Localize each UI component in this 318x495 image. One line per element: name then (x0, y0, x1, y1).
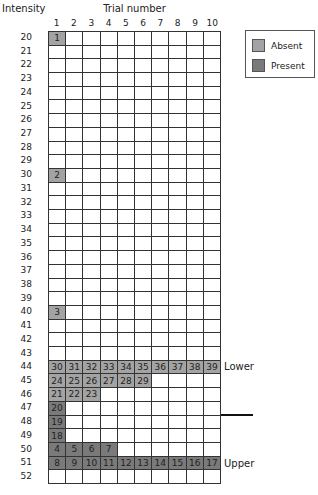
legend-item-absent: Absent (252, 39, 302, 52)
grid-cell (118, 292, 135, 306)
grid-cell (152, 347, 169, 361)
grid-cell (169, 443, 186, 457)
grid-cell (135, 155, 152, 169)
grid-cell (66, 155, 83, 169)
y-tick: 46 (0, 388, 34, 402)
grid-cell (101, 265, 118, 279)
grid-cell (152, 374, 169, 388)
grid-cell (49, 114, 66, 128)
grid-cell (83, 210, 100, 224)
grid-cell (135, 32, 152, 46)
grid-cell: 10 (83, 457, 100, 471)
grid-cell (66, 306, 83, 320)
grid-cell (101, 155, 118, 169)
grid-cell (135, 429, 152, 443)
grid-cell (135, 87, 152, 101)
grid-cell (187, 292, 204, 306)
grid-cell (187, 251, 204, 265)
grid-cell (101, 87, 118, 101)
grid-cell (49, 196, 66, 210)
grid-cell (187, 374, 204, 388)
grid-cell (187, 46, 204, 60)
grid-cell (152, 224, 169, 238)
grid-cell (169, 320, 186, 334)
grid-cell (204, 292, 221, 306)
grid-cell (204, 142, 221, 156)
grid-cell (152, 73, 169, 87)
x-tick: 3 (83, 18, 100, 31)
grid-cell (101, 128, 118, 142)
grid-cell (118, 265, 135, 279)
grid-cell (101, 388, 118, 402)
y-tick: 31 (0, 182, 34, 196)
absent-swatch (252, 39, 265, 52)
grid-cell: 24 (49, 374, 66, 388)
grid-cell (101, 59, 118, 73)
grid-cell (118, 416, 135, 430)
row-annotation-upper: Upper (224, 458, 254, 469)
grid-cell (66, 114, 83, 128)
grid-cell (118, 114, 135, 128)
x-axis-label: Trial number (48, 3, 221, 14)
grid-cell (204, 100, 221, 114)
grid-cell: 37 (169, 361, 186, 375)
trial-grid: 1233031323334353637383924252627282921222… (48, 31, 221, 484)
y-tick: 36 (0, 251, 34, 265)
row-annotation-lower: Lower (224, 361, 254, 372)
y-ticks: 2021222324252627282930313233343536373839… (0, 31, 34, 484)
x-tick: 4 (100, 18, 117, 31)
grid-cell (204, 320, 221, 334)
grid-cell (66, 46, 83, 60)
grid-cell (169, 183, 186, 197)
grid-cell (152, 320, 169, 334)
y-tick: 44 (0, 360, 34, 374)
grid-cell (83, 73, 100, 87)
grid-cell (83, 155, 100, 169)
grid-cell (187, 320, 204, 334)
grid-cell: 35 (135, 361, 152, 375)
x-tick: 5 (117, 18, 134, 31)
grid-cell (101, 32, 118, 46)
grid-cell (135, 320, 152, 334)
grid-cell: 6 (83, 443, 100, 457)
grid-cell (49, 292, 66, 306)
grid-cell (118, 210, 135, 224)
grid-cell (187, 416, 204, 430)
grid-cell (135, 142, 152, 156)
grid-cell (49, 279, 66, 293)
grid-cell (152, 100, 169, 114)
grid-cell (187, 87, 204, 101)
grid-cell (169, 142, 186, 156)
grid-cell (118, 183, 135, 197)
grid-cell (49, 183, 66, 197)
grid-cell: 16 (187, 457, 204, 471)
grid-cell (152, 210, 169, 224)
grid-cell (187, 388, 204, 402)
grid-cell (169, 251, 186, 265)
grid-cell (169, 169, 186, 183)
x-tick: 9 (186, 18, 203, 31)
grid-cell (83, 416, 100, 430)
grid-cell (101, 429, 118, 443)
grid-cell (204, 443, 221, 457)
grid-cell (187, 210, 204, 224)
grid-cell (66, 265, 83, 279)
x-tick: 6 (134, 18, 151, 31)
grid-cell (187, 224, 204, 238)
grid-cell (66, 73, 83, 87)
grid-cell (204, 237, 221, 251)
y-tick: 49 (0, 429, 34, 443)
grid-cell (49, 251, 66, 265)
grid-cell (83, 169, 100, 183)
grid-cell: 23 (83, 388, 100, 402)
grid-cell: 9 (66, 457, 83, 471)
grid-cell (204, 333, 221, 347)
grid-cell (135, 333, 152, 347)
grid-cell: 38 (187, 361, 204, 375)
grid-cell (152, 333, 169, 347)
grid-cell: 3 (49, 306, 66, 320)
grid-cell (169, 155, 186, 169)
grid-cell (66, 402, 83, 416)
grid-cell (135, 169, 152, 183)
grid-cell (66, 292, 83, 306)
